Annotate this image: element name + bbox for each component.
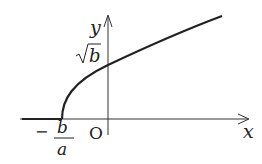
svg-text:b: b [57, 117, 68, 137]
y-axis-label: y [89, 16, 101, 38]
origin-label: O [89, 123, 103, 143]
svg-text:b: b [89, 45, 101, 66]
svg-text:a: a [57, 139, 67, 159]
x-axis-label: x [243, 120, 254, 142]
x-start-label: − b a [35, 117, 74, 159]
y-intercept-label: b [76, 44, 101, 66]
function-graph: y x O b − b a [0, 0, 262, 164]
svg-text:−: − [35, 122, 48, 141]
sqrt-curve [62, 16, 222, 119]
